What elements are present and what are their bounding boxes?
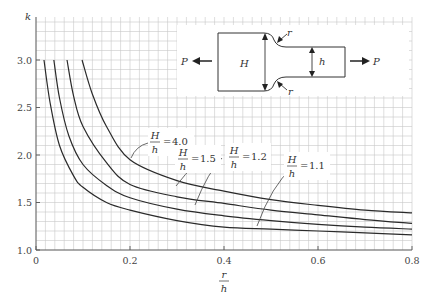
svg-text:1.5: 1.5 <box>200 153 216 164</box>
y-tick-label: 3.0 <box>17 55 32 66</box>
x-tick-label: 0.4 <box>216 255 231 266</box>
svg-text:1.2: 1.2 <box>251 151 267 162</box>
svg-text:h: h <box>289 168 295 179</box>
svg-text:H: H <box>287 154 297 165</box>
load-left: P <box>180 56 188 67</box>
inset-diagram: H h r r P P <box>177 25 409 97</box>
svg-text:h: h <box>231 159 237 170</box>
stress-concentration-chart: 00.20.40.60.81.01.52.02.53.0 H h = 4.0 H… <box>0 0 432 303</box>
y-tick-label: 1.5 <box>17 197 32 208</box>
y-axis-label: k <box>25 11 31 22</box>
label-h-1-1: H h = 1.1 <box>284 152 330 180</box>
svg-text:=: = <box>242 151 250 162</box>
svg-text:=: = <box>300 160 308 171</box>
svg-text:H: H <box>229 145 239 156</box>
x-tick-label: 0.2 <box>122 255 137 266</box>
load-right: P <box>372 56 380 67</box>
svg-text:1.1: 1.1 <box>309 160 325 171</box>
svg-text:=: = <box>191 153 199 164</box>
svg-text:r: r <box>222 269 228 280</box>
x-tick-label: 0.8 <box>404 255 419 266</box>
dim-H: H <box>239 58 249 69</box>
svg-text:h: h <box>180 161 186 172</box>
x-tick-label: 0.6 <box>310 255 325 266</box>
svg-text:h: h <box>221 283 227 294</box>
svg-text:H: H <box>178 147 188 158</box>
svg-text:=: = <box>163 136 171 147</box>
label-h-1-2: H h = 1.2 <box>225 143 271 171</box>
dim-h: h <box>319 56 325 67</box>
x-tick-label: 0 <box>33 255 39 266</box>
frac-den: h <box>152 144 158 155</box>
frac-num: H <box>150 130 160 141</box>
y-tick-label: 1.0 <box>17 245 32 256</box>
y-tick-label: 2.5 <box>17 102 32 113</box>
x-axis-label: r h <box>219 269 229 294</box>
label-h-1-5: H h = 1.5 <box>175 145 221 173</box>
y-tick-label: 2.0 <box>17 150 32 161</box>
